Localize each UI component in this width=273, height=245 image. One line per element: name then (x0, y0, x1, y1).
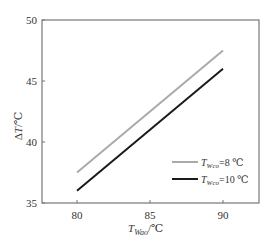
y-tick-label: 40 (26, 136, 38, 148)
series-line (77, 51, 223, 173)
x-tick-label: 90 (218, 209, 230, 221)
y-tick-label: 50 (26, 14, 38, 26)
legend-label: TWco=8 ℃ (201, 157, 243, 170)
x-tick-label: 80 (72, 209, 84, 221)
x-axis-label: TWao/℃ (128, 222, 163, 237)
y-axis-label: ΔT/℃ (12, 112, 24, 141)
y-tick-label: 45 (26, 75, 38, 87)
legend-label: TWco=10 ℃ (201, 174, 248, 187)
line-chart: 35404550808590TWao/℃ΔT/℃TWco=8 ℃TWco=10 … (0, 0, 273, 245)
y-tick-label: 35 (26, 197, 38, 209)
x-tick-label: 85 (145, 209, 157, 221)
series-line (77, 69, 223, 191)
